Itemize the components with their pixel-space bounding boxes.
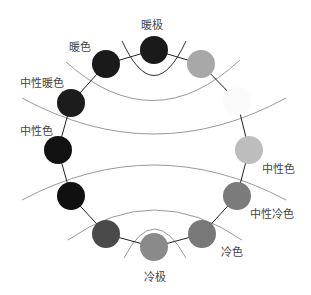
color-swatch-6 — [188, 220, 216, 248]
label-warm: 暖色 — [69, 38, 91, 54]
label-neutral-left: 中性色 — [20, 122, 53, 138]
color-swatch-11 — [57, 89, 85, 117]
color-swatch-0 — [92, 50, 120, 78]
color-swatch-5 — [223, 182, 251, 210]
label-neutral-cool: 中性冷色 — [250, 205, 294, 221]
label-neutral-right: 中性色 — [262, 160, 295, 176]
wheel-graphic — [0, 0, 311, 295]
color-swatch-10 — [44, 136, 72, 164]
label-cool: 冷色 — [221, 243, 243, 259]
color-swatch-2 — [187, 50, 215, 78]
color-swatch-3 — [223, 87, 251, 115]
label-cool-pole: 冷极 — [144, 268, 166, 284]
ring-connector — [58, 50, 249, 247]
color-temperature-wheel: 暖极 暖色 中性暖色 中性色 中性色 中性冷色 冷色 冷极 — [0, 0, 311, 295]
color-swatch-1 — [140, 36, 168, 64]
color-swatch-7 — [140, 233, 168, 261]
swatch-group — [44, 36, 263, 261]
label-neutral-warm: 中性暖色 — [20, 74, 64, 90]
color-swatch-4 — [235, 136, 263, 164]
color-swatch-8 — [92, 220, 120, 248]
color-swatch-9 — [57, 182, 85, 210]
label-warm-pole: 暖极 — [141, 16, 163, 32]
